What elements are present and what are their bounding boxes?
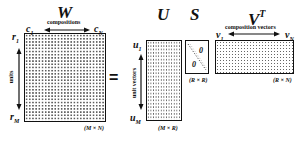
w-row-first-sub: 1 [16,38,19,44]
w-matrix-grid [24,33,106,122]
vt-composition-vectors-label: composition vectors [225,24,276,30]
w-compositions-label: compositions [47,19,80,25]
u-matrix-title: U [157,6,169,23]
u-dimensions-label: (M × R) [158,125,178,131]
u-matrix-grid [146,40,182,121]
w-units-double-arrow-icon [16,48,22,110]
w-row-last-label: rM [10,112,19,126]
s-dimensions-label: (R × R) [189,77,207,83]
u-row-last-label: uM [130,113,141,127]
s-matrix-title: S [190,6,199,23]
vt-matrix-grid [215,40,294,74]
w-units-label: units [8,70,14,84]
u-row-last-sub: M [136,119,141,125]
vt-composition-vectors-double-arrow-icon [228,31,280,37]
w-dimensions-label: (M × N) [84,125,104,131]
w-row-last-sub: M [14,118,19,124]
w-row-first-label: r1 [12,32,19,46]
u-row-first-sub: 1 [139,46,142,52]
u-row-first-label: u1 [133,40,142,54]
s-diagonal-entries-icon [186,41,208,73]
vt-dimensions-label: (R × N) [273,77,292,83]
s-upper-zero: 0 [199,46,203,56]
vt-title-superscript: T [259,8,265,19]
s-matrix-diagonal: 0 0 [185,40,209,74]
equals-sign: = [109,70,118,86]
s-lower-zero: 0 [192,60,196,70]
u-unit-vectors-label: unit vectors [131,61,137,105]
u-unit-vectors-double-arrow-icon [138,54,144,110]
